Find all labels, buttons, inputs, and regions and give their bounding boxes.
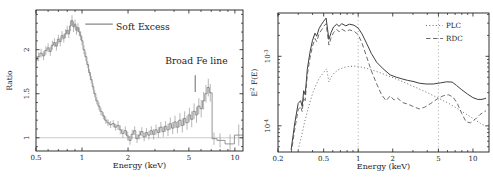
- left-ratio-chart: 0.51251011.52Energy (keV)RatioSoft Exces…: [5, 10, 243, 170]
- series-plc-curve: [298, 66, 486, 150]
- spectra-figure: 0.51251011.52Energy (keV)RatioSoft Exces…: [0, 0, 493, 183]
- y-axis-label: E2 F(E): [249, 68, 259, 96]
- series-rdc-curve: [291, 24, 486, 154]
- x-tick-label: 5: [436, 155, 440, 163]
- x-tick-label: 5: [187, 154, 191, 162]
- error-bars: [36, 15, 239, 153]
- y-tick-label: 10-4: [263, 118, 272, 133]
- figure-canvas: 0.51251011.52Energy (keV)RatioSoft Exces…: [0, 0, 493, 183]
- x-tick-label: 1: [80, 154, 84, 162]
- y-tick-label: 2: [23, 47, 31, 51]
- x-tick-label: 0.5: [318, 155, 329, 163]
- y-axis-label: Ratio: [5, 70, 14, 91]
- legend-label-rdc: RDC: [446, 34, 463, 43]
- series-layer: [36, 15, 243, 153]
- y-tick-label: 1: [23, 136, 31, 140]
- annotation-broad-fe-line: Broad Fe line: [165, 55, 227, 66]
- legend-label-plc: PLC: [446, 21, 462, 30]
- annotation-soft-excess: Soft Excess: [116, 21, 170, 32]
- y-tick-label: 10-3: [263, 49, 272, 63]
- x-tick-label: 10: [230, 154, 239, 162]
- x-tick-label: 10: [468, 155, 477, 163]
- x-axis-label: Energy (keV): [357, 162, 410, 171]
- x-tick-label: 0.5: [30, 154, 41, 162]
- x-tick-label: 0.2: [272, 155, 283, 163]
- y-tick-label: 1.5: [23, 88, 31, 99]
- x-axis-label: Energy (keV): [113, 161, 166, 170]
- legend: PLCRDC: [426, 21, 463, 43]
- right-model-chart: 0.20.51251010-410-3Energy (keV)E2 F(E)PL…: [249, 13, 489, 171]
- series-data-ratio: [36, 21, 243, 144]
